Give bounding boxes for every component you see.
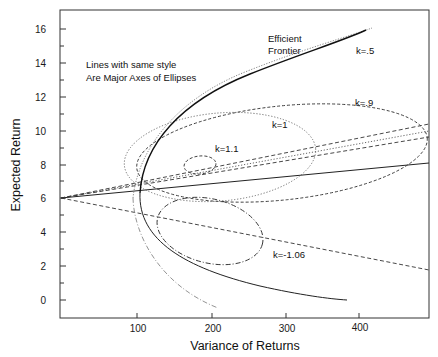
label-k-1.1: k=1.1 [215,143,239,154]
x-axis-ticks [137,313,359,318]
note-line-1: Lines with same style [86,59,176,70]
major-axis-dashed-upper [61,124,429,198]
y-tick-14: 14 [35,58,47,69]
frontier-label-2: Frontier [268,45,301,56]
frontier-label-1: Efficient [268,33,302,44]
y-tick-8: 8 [40,160,46,171]
x-tick-400: 400 [352,322,369,333]
plot-frame [60,10,429,318]
x-axis-title: Variance of Returns [190,339,300,353]
y-tick-2: 2 [40,261,46,272]
ellipse-k-1 [121,105,320,209]
ellipse-k-0.9 [132,91,432,215]
label-k-neg1.06: k=-1.06 [273,249,305,260]
note-line-2: Are Major Axes of Ellipses [86,72,197,83]
y-axis-title: Expected Return [9,118,23,211]
frontier-k-0.5-upper [133,28,372,198]
y-tick-10: 10 [35,126,47,137]
y-tick-4: 4 [40,227,46,238]
y-tick-12: 12 [35,92,47,103]
efficient-frontier-upper [140,30,366,193]
x-tick-100: 100 [130,323,147,334]
label-k-0.5: k=.5 [356,45,374,56]
x-tick-300: 300 [279,323,296,334]
y-tick-16: 16 [35,24,47,35]
y-tick-labels: 16 14 12 10 8 6 4 2 0 [35,24,47,306]
mean-variance-chart: 16 14 12 10 8 6 4 2 0 100 200 300 400 Va… [0,0,438,357]
y-tick-6: 6 [40,193,46,204]
x-tick-200: 200 [205,323,222,334]
x-tick-labels: 100 200 300 400 [130,322,369,334]
label-k-1: k=1 [272,119,288,130]
major-axis-dashed-lower [61,137,429,198]
y-axis-ticks [60,29,66,300]
label-k-0.9: k=.9 [355,97,373,108]
major-axis-dashed-down [61,198,429,270]
ellipse-k-neg1.06 [150,187,270,275]
major-axis-dotted [61,131,429,198]
y-tick-0: 0 [40,295,46,306]
